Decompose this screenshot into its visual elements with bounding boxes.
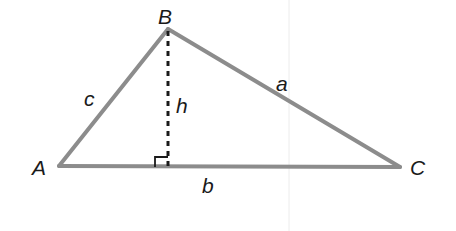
side-c bbox=[59, 29, 168, 166]
side-b bbox=[59, 166, 400, 167]
side-label-a: a bbox=[276, 72, 288, 95]
altitude-label-h: h bbox=[176, 94, 188, 117]
vertex-label-c: C bbox=[410, 156, 426, 179]
side-label-c: c bbox=[84, 87, 95, 110]
side-a bbox=[168, 29, 400, 167]
side-label-b: b bbox=[202, 174, 214, 197]
vertex-label-b: B bbox=[158, 5, 172, 28]
vertex-label-a: A bbox=[30, 156, 46, 179]
triangle-diagram: B A C c a b h bbox=[0, 0, 456, 231]
